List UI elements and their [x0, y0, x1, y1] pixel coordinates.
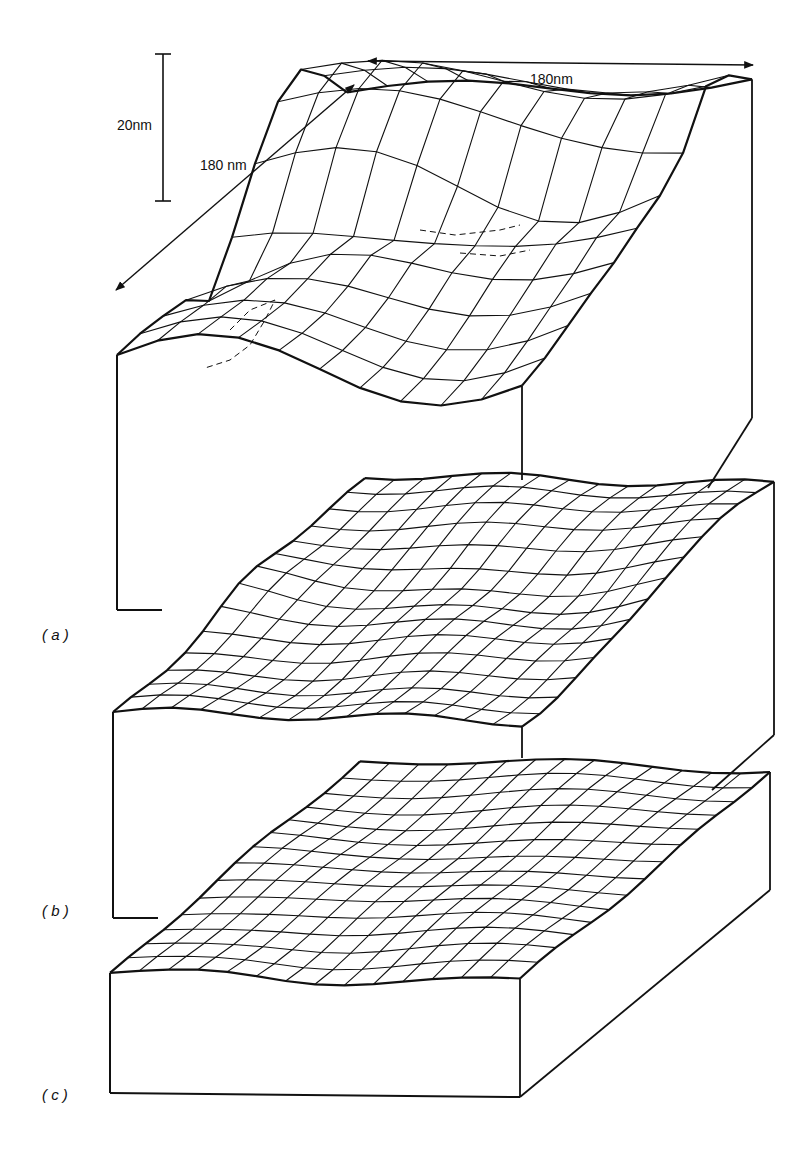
- panel-label-c: ( c ): [42, 1086, 68, 1103]
- surface-plot-figure: 20nm 180 nm 180nm ( a ) ( b ) ( c ): [0, 0, 806, 1155]
- panel-label-a: ( a ): [42, 626, 69, 643]
- surface-panel-a: [117, 60, 752, 610]
- surface-panel-c: [110, 759, 770, 1097]
- panel-label-b: ( b ): [42, 902, 69, 919]
- scale-label-vertical: 20nm: [117, 117, 152, 133]
- scale-label-depth: 180 nm: [200, 157, 247, 173]
- scale-bar-vertical: 20nm: [117, 54, 171, 201]
- scale-bar-depth: 180 nm: [116, 85, 354, 290]
